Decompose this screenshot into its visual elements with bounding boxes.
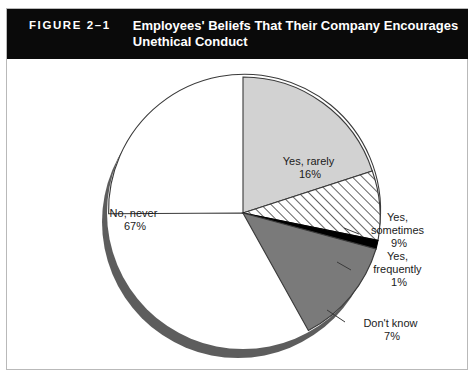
pie-label-dont-know-title: Don't know	[363, 317, 417, 329]
figure-caption-bar: FIGURE 2–1 Employees' Beliefs That Their…	[7, 9, 468, 59]
pie-chart-svg: No, never 67% Yes, rarely 16% Yes, somet…	[7, 60, 468, 369]
pie-label-yes-rarely-title: Yes, rarely	[283, 155, 335, 167]
pie-label-yes-frequently-title-1: Yes,	[387, 250, 408, 262]
pie-chart: No, never 67% Yes, rarely 16% Yes, somet…	[7, 60, 468, 369]
pie-label-yes-frequently-value: 1%	[391, 276, 407, 288]
pie-label-yes-sometimes-title-2: sometimes	[371, 224, 425, 236]
pie-label-no-never-title: No, never	[110, 207, 158, 219]
figure-container: FIGURE 2–1 Employees' Beliefs That Their…	[0, 0, 475, 377]
pie-label-no-never-value: 67%	[124, 220, 146, 232]
figure-title-line-1: Employees' Beliefs That Their Company En…	[133, 18, 468, 34]
pie-label-yes-frequently: Yes, frequently 1%	[373, 250, 424, 288]
pie-label-yes-sometimes-value: 9%	[391, 237, 407, 249]
figure-title: Employees' Beliefs That Their Company En…	[111, 18, 468, 49]
figure-title-line-2: Unethical Conduct	[133, 34, 468, 50]
pie-label-yes-sometimes-title-1: Yes,	[387, 211, 408, 223]
pie-label-dont-know: Don't know 7%	[363, 317, 420, 342]
pie-label-yes-frequently-title-2: frequently	[373, 263, 422, 275]
pie-label-yes-rarely-value: 16%	[299, 168, 321, 180]
figure-number-label: FIGURE 2–1	[7, 18, 111, 31]
pie-label-dont-know-value: 7%	[384, 330, 400, 342]
